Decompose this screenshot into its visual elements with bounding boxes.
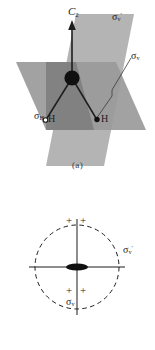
- sigma-v-label: σv: [66, 297, 74, 308]
- atom-label-hydrogen-left: H: [48, 114, 55, 124]
- atom-oxygen: [64, 70, 79, 85]
- sigma-h-label: σH: [34, 111, 44, 122]
- atom-label-hydrogen-right: H: [101, 114, 108, 124]
- orbital-sign-top-right: +: [80, 215, 86, 226]
- panel-a-graphic: [0, 0, 155, 175]
- orbital-sign-top-left: +: [66, 215, 72, 226]
- central-orbital-lobe: [66, 263, 88, 270]
- sigma-v-prime-label: σv′: [123, 245, 133, 256]
- panel-b: + + + + σv′ σv (b): [0, 175, 155, 350]
- sigma-v-prime-label: σv′: [112, 12, 122, 23]
- panel-b-graphic: [0, 175, 155, 350]
- sigma-v-label: σv: [131, 51, 139, 62]
- orbital-sign-bottom-left: +: [66, 285, 72, 296]
- atom-hydrogen-right: [94, 117, 99, 122]
- panel-a: C2 σv′ σv σH H H (a): [0, 0, 155, 175]
- c2-axis-label: C2: [68, 6, 79, 18]
- figure-root: C2 σv′ σv σH H H (a): [0, 0, 155, 350]
- orbital-sign-bottom-right: +: [80, 285, 86, 296]
- panel-a-caption: (a): [0, 160, 155, 170]
